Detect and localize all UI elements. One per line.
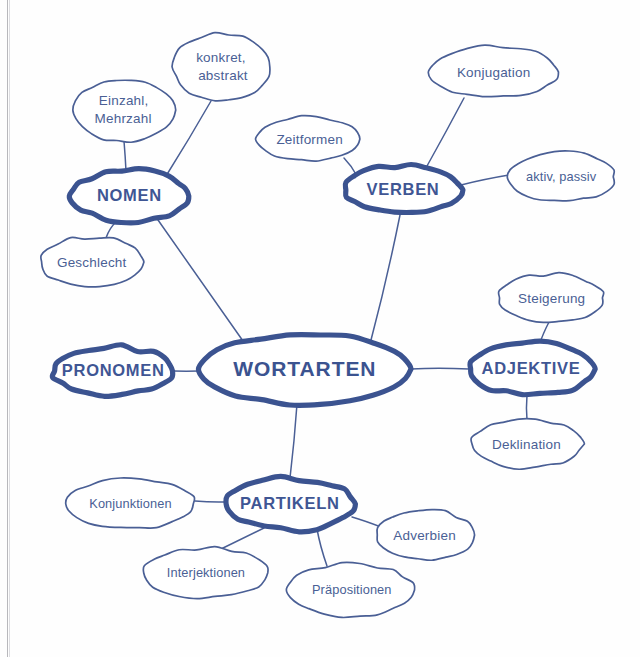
center-node-wortarten[interactable]: WORTARTEN — [198, 335, 411, 406]
leaf-node-aktiv-passiv-label: aktiv, passiv — [526, 169, 597, 184]
branch-node-adjektive-label: ADJEKTIVE — [482, 359, 581, 377]
leaf-node-geschlecht-label: Geschlecht — [57, 255, 127, 270]
leaf-node-geschlecht[interactable]: Geschlecht — [41, 237, 144, 286]
branch-node-partikeln-label: PARTIKELN — [240, 494, 340, 512]
leaf-node-konkret-abstrakt[interactable]: konkret,abstrakt — [172, 33, 270, 101]
edge-verben-aktivpassiv — [461, 175, 509, 185]
leaf-node-deklination-label: Deklination — [492, 437, 561, 452]
leaf-node-praepositionen-label: Präpositionen — [312, 582, 392, 597]
mindmap-canvas: Einzahl,Mehrzahlkonkret,abstraktGeschlec… — [0, 0, 640, 657]
edge-partikeln-interjektionen — [221, 528, 264, 549]
leaf-node-einzahl-mehrzahl[interactable]: Einzahl,Mehrzahl — [73, 80, 176, 142]
branch-node-pronomen-label: PRONOMEN — [62, 361, 165, 379]
leaf-node-einzahl-mehrzahl-label-line1: Einzahl, — [99, 93, 149, 108]
branch-node-nomen[interactable]: NOMEN — [69, 169, 189, 223]
leaf-node-konjugation[interactable]: Konjugation — [428, 45, 558, 97]
leaf-node-interjektionen[interactable]: Interjektionen — [143, 547, 268, 599]
leaf-node-konjunktionen-label: Konjunktionen — [89, 496, 171, 511]
edge-verben-konjugation — [427, 98, 464, 166]
edge-nomen-einzahl — [124, 141, 126, 171]
branch-node-adjektive[interactable]: ADJEKTIVE — [470, 341, 595, 395]
leaf-node-steigerung[interactable]: Steigerung — [499, 273, 604, 323]
edge-wortarten-partikeln — [290, 404, 297, 478]
leaf-node-konkret-abstrakt-label-line2: abstrakt — [198, 68, 248, 83]
branch-node-pronomen[interactable]: PRONOMEN — [52, 345, 172, 397]
edge-partikeln-adverbien — [352, 517, 381, 527]
leaf-nodes-layer: Einzahl,Mehrzahlkonkret,abstraktGeschlec… — [41, 33, 614, 618]
branch-node-partikeln[interactable]: PARTIKELN — [226, 476, 355, 531]
mindmap-svg: Einzahl,Mehrzahlkonkret,abstraktGeschlec… — [0, 0, 640, 657]
edge-wortarten-verben — [371, 215, 400, 340]
leaf-node-interjektionen-label: Interjektionen — [167, 565, 245, 580]
leaf-node-deklination[interactable]: Deklination — [471, 419, 584, 470]
leaf-node-aktiv-passiv[interactable]: aktiv, passiv — [507, 151, 614, 201]
center-node-wortarten-label: WORTARTEN — [233, 357, 376, 380]
leaf-node-adverbien[interactable]: Adverbien — [377, 510, 475, 561]
leaf-node-praepositionen[interactable]: Präpositionen — [286, 562, 414, 617]
edge-partikeln-konjunktionen — [195, 501, 226, 502]
edge-wortarten-nomen — [158, 220, 243, 341]
leaf-node-adverbien-label: Adverbien — [393, 528, 456, 543]
leaf-node-konjunktionen[interactable]: Konjunktionen — [66, 478, 195, 528]
leaf-node-zeitformen[interactable]: Zeitformen — [256, 116, 360, 162]
branch-node-verben[interactable]: VERBEN — [345, 164, 463, 212]
edge-partikeln-praepositionen — [317, 529, 327, 566]
branch-node-nomen-label: NOMEN — [97, 186, 162, 204]
leaf-node-zeitformen-label: Zeitformen — [276, 132, 343, 147]
edge-wortarten-adjektive — [411, 368, 469, 369]
center-node-layer: WORTARTEN — [198, 335, 411, 406]
edge-adjektive-deklination — [526, 395, 527, 420]
leaf-node-einzahl-mehrzahl-label-line2: Mehrzahl — [95, 111, 152, 126]
branch-node-verben-label: VERBEN — [366, 180, 439, 198]
leaf-node-konkret-abstrakt-label-line1: konkret, — [196, 50, 246, 65]
leaf-node-konjugation-label: Konjugation — [457, 65, 531, 80]
leaf-node-steigerung-label: Steigerung — [518, 291, 585, 306]
